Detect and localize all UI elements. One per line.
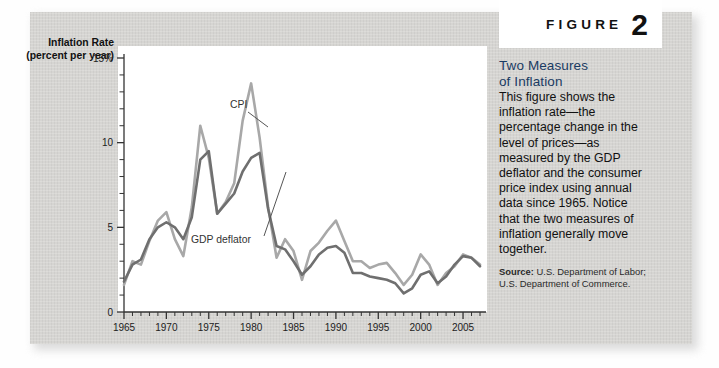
side-panel-title-line1: Two Measures bbox=[499, 58, 649, 74]
gdp-deflator-label: GDP deflator bbox=[191, 234, 251, 245]
source-label: Source: bbox=[499, 266, 534, 277]
x-tick-label: 1975 bbox=[198, 322, 221, 333]
x-tick-label: 2000 bbox=[410, 322, 433, 333]
y-tick-label: 5 bbox=[107, 222, 113, 233]
x-tick-label: 1995 bbox=[367, 322, 390, 333]
y-tick-label: 10 bbox=[102, 137, 114, 148]
y-tick-label: 15% bbox=[93, 53, 113, 64]
x-axis: 196519701975198019851990199520002005 bbox=[113, 312, 486, 333]
annotation-cpi: CPI bbox=[230, 99, 268, 127]
x-tick-label: 1985 bbox=[282, 322, 305, 333]
y-tick-label: 0 bbox=[107, 307, 113, 318]
side-panel-body: This figure shows the inflation rate—the… bbox=[499, 90, 649, 257]
x-tick-label: 1965 bbox=[113, 322, 136, 333]
series-line-cpi bbox=[124, 83, 480, 285]
cpi-label: CPI bbox=[230, 99, 247, 110]
page-background: FIGURE 2 Inflation Rate (percent per yea… bbox=[0, 0, 719, 368]
x-tick-label: 1970 bbox=[155, 322, 178, 333]
side-panel-title: Two Measures of Inflation bbox=[499, 58, 649, 89]
x-tick-label: 1980 bbox=[240, 322, 263, 333]
side-panel: Two Measures of Inflation This figure sh… bbox=[499, 58, 649, 289]
x-tick-label: 1990 bbox=[325, 322, 348, 333]
side-panel-source: Source: U.S. Department of Labor; U.S. D… bbox=[499, 266, 649, 289]
series-line-gdp-deflator bbox=[124, 151, 480, 293]
y-axis: 051015% bbox=[93, 53, 124, 318]
side-panel-title-line2: of Inflation bbox=[499, 74, 649, 90]
series-lines bbox=[124, 83, 480, 293]
x-tick-label: 2005 bbox=[452, 322, 475, 333]
